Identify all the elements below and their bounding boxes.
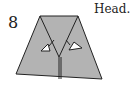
origami-head-diagram [0,0,132,91]
